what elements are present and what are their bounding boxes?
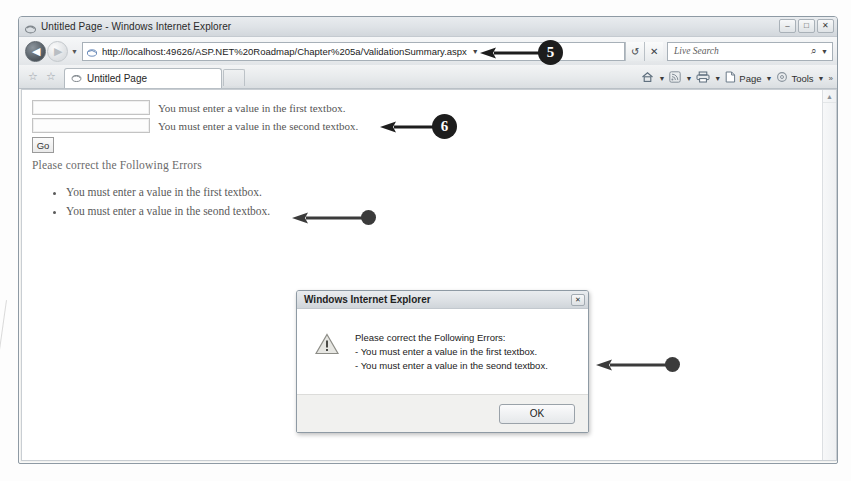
second-textbox-validation-message: You must enter a value in the second tex… (158, 120, 358, 132)
ie-favicon-icon (25, 21, 36, 32)
history-dropdown-icon[interactable]: ▼ (71, 48, 78, 55)
window-controls: – □ ✕ (779, 19, 834, 33)
print-button[interactable] (694, 71, 712, 85)
title-bar: Untitled Page - Windows Internet Explore… (19, 17, 837, 37)
tools-menu-button[interactable]: Tools (774, 71, 815, 85)
validation-summary-heading: Please correct the Following Errors (32, 159, 822, 171)
callout-summary-arrow (292, 211, 366, 225)
favorites-center-icon[interactable]: ☆ (43, 68, 58, 85)
second-textbox[interactable] (32, 118, 150, 133)
refresh-icon[interactable]: ↺ (625, 42, 644, 61)
maximize-button[interactable]: □ (798, 19, 815, 33)
new-tab-button[interactable] (223, 69, 245, 86)
dialog-footer: OK (297, 394, 588, 432)
page-menu-button[interactable]: Page (723, 71, 763, 85)
page-menu-dropdown-icon[interactable]: ▼ (765, 75, 772, 82)
form-row-first: You must enter a value in the first text… (32, 100, 822, 115)
dialog-error-line: - You must enter a value in the first te… (355, 345, 548, 359)
callout-badge-5: 5 (538, 40, 563, 65)
page-icon (725, 71, 736, 85)
validation-summary-list: You must enter a value in the first text… (32, 185, 822, 219)
tools-menu-label: Tools (791, 73, 813, 84)
callout-bullet-summary (361, 210, 376, 225)
first-textbox-validation-message: You must enter a value in the first text… (158, 102, 345, 114)
close-button[interactable]: ✕ (817, 19, 834, 33)
alert-dialog: Windows Internet Explorer ✕ Please corre… (296, 290, 589, 433)
callout-bullet-dialog (665, 357, 680, 372)
search-input[interactable]: Live Search ⌕ ▼ (667, 42, 833, 61)
dialog-heading: Please correct the Following Errors: (355, 331, 548, 345)
forward-button[interactable]: ▶ (47, 41, 68, 62)
dialog-title: Windows Internet Explorer (304, 294, 431, 305)
home-icon (641, 71, 654, 85)
first-textbox[interactable] (32, 100, 150, 115)
print-icon (696, 71, 710, 85)
list-item: You must enter a value in the seond text… (66, 204, 822, 218)
dialog-body: Please correct the Following Errors: - Y… (297, 309, 588, 394)
tab-label: Untitled Page (87, 73, 147, 84)
ok-button[interactable]: OK (499, 404, 575, 424)
callout-badge-6: 6 (432, 114, 457, 139)
back-button[interactable]: ◀ (25, 41, 46, 62)
list-item: You must enter a value in the first text… (66, 185, 822, 199)
search-icon[interactable]: ⌕ (811, 45, 821, 57)
screenshot-root: Untitled Page - Windows Internet Explore… (0, 0, 851, 481)
page-favicon-icon (86, 45, 98, 57)
address-toolbar: ◀ ▶ ▼ http://localhost:49626/ASP.NET%20R… (19, 37, 837, 65)
dialog-error-line: - You must enter a value in the seond te… (355, 359, 548, 373)
callout-dialog-arrow (596, 358, 670, 372)
search-provider-icon[interactable]: ▼ (821, 48, 832, 55)
feeds-button[interactable] (667, 71, 683, 85)
feeds-dropdown-icon[interactable]: ▼ (685, 75, 692, 82)
minimize-button[interactable]: – (779, 19, 796, 33)
rss-feed-icon (669, 71, 681, 85)
print-dropdown-icon[interactable]: ▼ (714, 75, 721, 82)
tab-favicon-icon (71, 70, 82, 88)
page-menu-label: Page (739, 73, 761, 84)
command-overflow-icon[interactable]: » (829, 74, 833, 83)
search-placeholder: Live Search (668, 46, 811, 56)
stop-icon[interactable]: ✕ (644, 42, 663, 61)
dialog-close-button[interactable]: ✕ (571, 294, 585, 306)
dialog-window-controls: ✕ (571, 294, 585, 306)
address-url-text: http://localhost:49626/ASP.NET%20Roadmap… (102, 46, 467, 57)
dialog-message: Please correct the Following Errors: - Y… (341, 331, 548, 394)
tab-bar: ☆ ☆ Untitled Page (19, 65, 837, 89)
tools-menu-dropdown-icon[interactable]: ▼ (818, 75, 825, 82)
command-bar: ▼ ▼ (639, 71, 833, 88)
add-favorite-icon[interactable]: ☆ (25, 68, 40, 85)
scroll-up-icon[interactable]: ▲ (823, 90, 836, 103)
home-dropdown-icon[interactable]: ▼ (658, 75, 665, 82)
tools-icon (776, 71, 788, 85)
warning-icon (315, 331, 341, 394)
dialog-title-bar: Windows Internet Explorer ✕ (297, 291, 588, 309)
tab-untitled-page[interactable]: Untitled Page (64, 68, 222, 88)
home-button[interactable] (639, 71, 656, 85)
page-scrollbar[interactable]: ▲ (822, 90, 836, 460)
go-button[interactable]: Go (32, 137, 54, 153)
window-title: Untitled Page - Windows Internet Explore… (41, 21, 231, 32)
